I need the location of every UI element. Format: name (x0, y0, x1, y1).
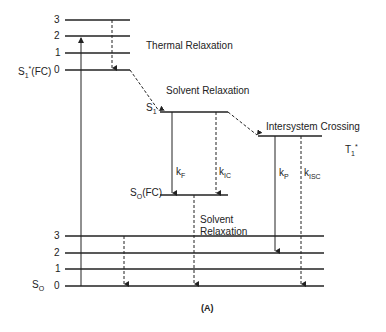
s0-level-3-label: 3 (54, 231, 60, 241)
kisc-label: kISC (304, 168, 321, 180)
s0-level-2-label: 2 (54, 248, 60, 258)
isc-diagonal (228, 112, 257, 135)
thermal-relaxation-label: Thermal Relaxation (146, 41, 233, 51)
kf-label: kF (176, 167, 185, 179)
s1fc-level-3-label: 3 (54, 15, 60, 25)
s1-state-label: S1 (146, 103, 157, 115)
solvent-relaxation-2-line1: Solvent (200, 215, 233, 225)
s0fc-state-label: SO(FC) (130, 188, 162, 200)
intersystem-crossing-label: Intersystem Crossing (266, 122, 360, 132)
figure-caption: (A) (201, 304, 214, 313)
s1fc-level-0-label: 0 (54, 65, 60, 75)
solvent-relaxation-2-line2: Relaxation (200, 227, 247, 237)
solvent-relaxation-label: Solvent Relaxation (166, 86, 249, 96)
s1fc-level-1-label: 1 (55, 48, 61, 58)
t1-state-label: T1* (345, 143, 358, 157)
s0-state-label: SO (32, 280, 44, 292)
kp-label: kP (279, 168, 289, 180)
s1fc-level-2-label: 2 (54, 31, 60, 41)
s0-level-0-label: 0 (54, 281, 60, 291)
kic-label: kIC (219, 167, 231, 179)
s0-level-1-label: 1 (55, 264, 61, 274)
s1fc-state-label: S1*(FC) (18, 65, 51, 79)
